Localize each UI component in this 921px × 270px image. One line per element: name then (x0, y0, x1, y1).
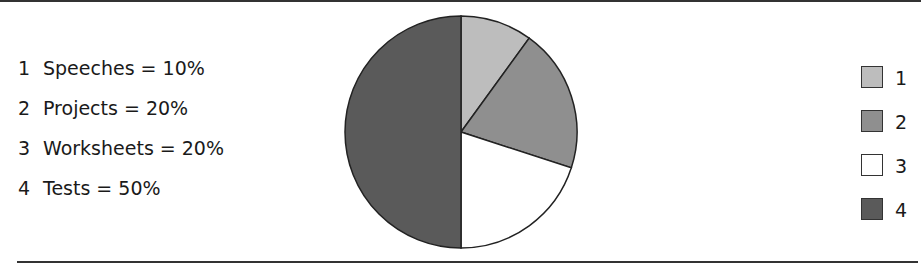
legend-swatch (861, 198, 883, 220)
category-label: 1Speeches = 10% (18, 56, 224, 96)
category-label-list: 1Speeches = 10% 2Projects = 20% 3Workshe… (18, 56, 224, 216)
category-label: 4Tests = 50% (18, 176, 224, 216)
legend-item: 3 (861, 152, 907, 196)
legend-item: 1 (861, 64, 907, 108)
category-text: Projects = 20% (43, 97, 188, 119)
category-label: 3Worksheets = 20% (18, 136, 224, 176)
pie-chart (343, 14, 579, 250)
category-number: 4 (18, 176, 43, 200)
category-number: 2 (18, 96, 43, 120)
bottom-rule (17, 261, 918, 263)
category-text: Speeches = 10% (43, 57, 205, 79)
category-number: 3 (18, 136, 43, 160)
top-rule (0, 0, 921, 2)
legend-label: 3 (895, 152, 907, 180)
legend-label: 4 (895, 196, 907, 224)
legend-swatch (861, 154, 883, 176)
category-text: Tests = 50% (43, 177, 161, 199)
category-number: 1 (18, 56, 43, 80)
legend-swatch (861, 110, 883, 132)
category-text: Worksheets = 20% (43, 137, 224, 159)
legend-label: 1 (895, 64, 907, 92)
legend-item: 2 (861, 108, 907, 152)
legend: 1 2 3 4 (861, 64, 907, 240)
legend-label: 2 (895, 108, 907, 136)
pie-slice-tests (345, 16, 461, 248)
legend-swatch (861, 66, 883, 88)
category-label: 2Projects = 20% (18, 96, 224, 136)
legend-item: 4 (861, 196, 907, 240)
